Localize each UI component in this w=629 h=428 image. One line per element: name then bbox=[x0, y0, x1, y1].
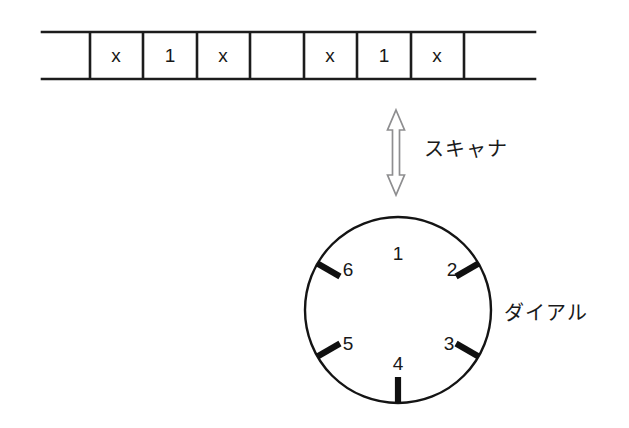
dial-number-2: 2 bbox=[447, 259, 458, 280]
tape-cell[interactable]: x bbox=[432, 45, 442, 66]
turing-machine-diagram: x 1 x x 1 x 1 2 3 4 5 6 bbox=[0, 0, 629, 428]
tape: x 1 x x 1 x bbox=[42, 32, 535, 79]
dial[interactable]: 1 2 3 4 5 6 bbox=[305, 217, 491, 403]
dial-number-6: 6 bbox=[343, 259, 354, 280]
tape-cell[interactable]: x bbox=[111, 45, 121, 66]
dial-number-3: 3 bbox=[444, 333, 455, 354]
double-headed-vertical-arrow-icon bbox=[388, 110, 405, 195]
dial-number-1: 1 bbox=[393, 243, 404, 264]
dial-label: ダイアル bbox=[504, 297, 588, 326]
tape-cell[interactable]: 1 bbox=[379, 45, 390, 66]
dial-number-4: 4 bbox=[393, 353, 404, 374]
tape-cell[interactable]: 1 bbox=[165, 45, 176, 66]
tape-cell[interactable]: x bbox=[325, 45, 335, 66]
tape-cell[interactable]: x bbox=[218, 45, 228, 66]
dial-number-5: 5 bbox=[343, 333, 354, 354]
diagram-canvas: x 1 x x 1 x 1 2 3 4 5 6 bbox=[0, 0, 629, 428]
scanner-label: スキャナ bbox=[424, 133, 508, 162]
